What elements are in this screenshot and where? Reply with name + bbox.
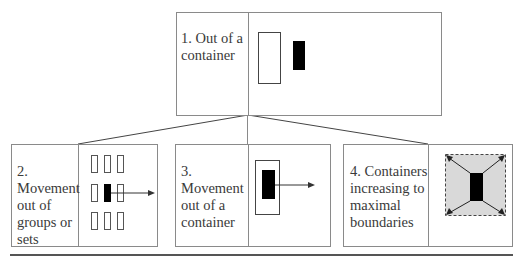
vertical-connector xyxy=(247,115,248,145)
box-movement-out-of-container: 3. Movement out of a container xyxy=(175,144,331,247)
bottom-rule xyxy=(10,254,513,256)
top-box-out-of-container: 1. Out of a container xyxy=(176,12,442,116)
box-divider xyxy=(248,13,249,115)
grouped-rectangles-icon xyxy=(79,145,159,248)
top-box-label: 1. Out of a container xyxy=(181,30,245,64)
container-with-arrow-icon xyxy=(249,145,332,248)
box-3-label: 3. Movement out of a container xyxy=(181,163,247,231)
box-movement-out-of-groups: 2. Movement out of groups or sets xyxy=(11,144,158,247)
expanding-container-icon xyxy=(429,145,514,248)
box-containers-increasing: 4. Containers increasing to maximal boun… xyxy=(343,144,513,247)
box-4-label: 4. Containers increasing to maximal boun… xyxy=(350,163,428,231)
black-element-icon xyxy=(293,41,305,70)
box-2-label: 2. Movement out of groups or sets xyxy=(17,163,77,248)
empty-container-icon xyxy=(258,32,281,84)
